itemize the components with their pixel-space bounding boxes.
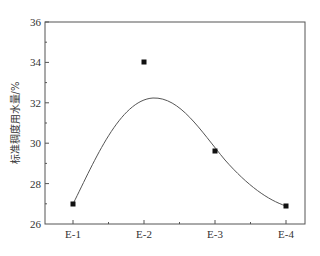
y-tick-label: 34	[30, 56, 42, 68]
data-markers	[71, 60, 289, 209]
fit-curve	[73, 98, 286, 206]
y-axis-label: 标准稠度用水量/%	[9, 82, 21, 165]
x-tick-label: E-1	[65, 228, 81, 240]
marker-e4	[284, 204, 289, 209]
y-tick-label: 36	[30, 16, 42, 28]
x-tick-label: E-4	[278, 228, 294, 240]
y-tick-label: 28	[30, 178, 42, 190]
chart: 36 34 32 30 28 26 E-1 E-2 E-3 E-4 标准稠度用水…	[0, 0, 320, 256]
x-axis	[73, 220, 286, 224]
y-tick-label: 30	[30, 137, 42, 149]
marker-e1	[71, 202, 76, 207]
x-tick-label: E-3	[207, 228, 223, 240]
y-tick-label: 26	[30, 218, 42, 230]
y-tick-label: 32	[30, 97, 41, 109]
x-tick-label: E-2	[136, 228, 152, 240]
marker-e3	[213, 149, 218, 154]
plot-frame	[45, 22, 305, 224]
y-axis	[45, 22, 49, 204]
marker-e2	[142, 60, 147, 65]
